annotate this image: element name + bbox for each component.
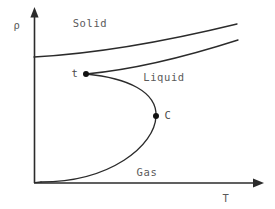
region-label-liquid: Liquid [143, 71, 185, 83]
triple-point-dot [83, 71, 89, 77]
critical-point-dot [153, 113, 159, 119]
curve-solid-liquid-lower-boundary [86, 40, 238, 74]
y-axis-label: ρ [14, 19, 21, 31]
phase-diagram-canvas: t C Solid Liquid Gas ρ T [0, 0, 275, 209]
phase-diagram: t C Solid Liquid Gas ρ T [0, 0, 275, 209]
x-axis-label: T [223, 192, 230, 204]
curve-solid-liquid-upper-boundary [34, 24, 237, 57]
y-axis-arrow-icon [30, 7, 38, 18]
region-label-gas: Gas [137, 166, 158, 178]
curve-gas-axis-tail [35, 182, 41, 183]
region-label-solid: Solid [73, 17, 108, 29]
triple-point-label: t [72, 67, 79, 79]
critical-point-label: C [165, 109, 172, 121]
x-axis-arrow-icon [253, 179, 264, 188]
